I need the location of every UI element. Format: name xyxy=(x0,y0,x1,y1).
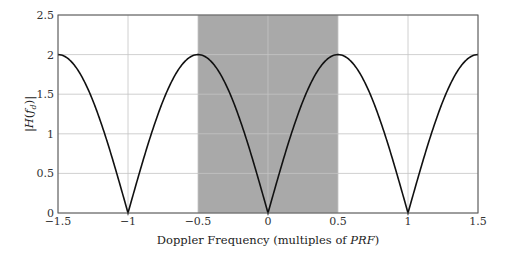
x-tick-label: −1 xyxy=(120,215,136,228)
y-tick-label: 2.5 xyxy=(37,9,55,22)
x-tick-labels: −1.5−1−0.500.511.5 xyxy=(45,215,487,228)
y-axis-label: |H(fd)| xyxy=(22,96,38,132)
x-tick-label: 0.5 xyxy=(329,215,347,228)
y-tick-label: 0.5 xyxy=(37,167,55,180)
x-tick-label: 1 xyxy=(405,215,412,228)
y-tick-label: 1.5 xyxy=(37,88,55,101)
x-tick-label: 0 xyxy=(265,215,272,228)
y-tick-label: 2 xyxy=(47,49,54,62)
x-tick-label: 1.5 xyxy=(469,215,487,228)
grid-lines xyxy=(58,15,478,213)
x-axis-label-suffix: ) xyxy=(375,233,380,247)
x-axis-label: Doppler Frequency (multiples of PRF) xyxy=(157,233,379,247)
x-tick-label: −0.5 xyxy=(185,215,212,228)
x-axis-label-prefix: Doppler Frequency (multiples of xyxy=(157,233,350,247)
x-axis-label-unit: PRF xyxy=(349,233,375,247)
y-tick-label: 1 xyxy=(47,128,54,141)
y-tick-label: 0 xyxy=(47,207,54,220)
y-tick-labels: 00.511.522.5 xyxy=(37,9,55,220)
chart: −1.5−1−0.500.511.5 00.511.522.5 Doppler … xyxy=(0,0,507,257)
